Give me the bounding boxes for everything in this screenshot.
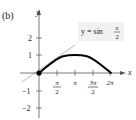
y-tick-label: −2 [22, 104, 31, 113]
y-tick-label: 2 [28, 34, 32, 43]
y-tick-label: 1 [28, 51, 32, 60]
x-axis-arrow-icon [120, 71, 126, 75]
x-tick-label: 2π [106, 79, 114, 87]
panel-label: (b) [2, 10, 14, 22]
x-tick-label-num: 3π [88, 79, 97, 87]
figure-panel: (b) y x 2 1 −1 −2 π [0, 0, 136, 120]
equation-label-den: 2 [115, 33, 118, 40]
x-ticks: π 2 π 3π 2 2π [53, 70, 114, 96]
equation-label-lhs: y = sin [81, 27, 103, 36]
x-axis-label: x [127, 68, 132, 77]
x-tick-label-den: 2 [91, 88, 95, 96]
x-tick-label-num: π [55, 79, 59, 87]
y-axis-label: y [35, 8, 40, 17]
x-tick-label-den: 2 [55, 88, 59, 96]
sine-graph: (b) y x 2 1 −1 −2 π [0, 0, 136, 120]
equation-label-num: x [115, 24, 119, 31]
origin-point [36, 70, 41, 75]
y-tick-label: −1 [22, 87, 31, 96]
x-tick-label: π [73, 79, 77, 87]
